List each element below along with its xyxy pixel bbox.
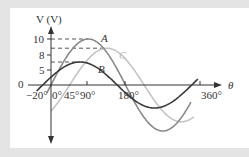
theta-axis-arrow-icon — [214, 82, 222, 88]
y-tick-10: 10 — [33, 33, 45, 45]
x-tick-0: 0° — [52, 89, 62, 101]
x-tick-180: 180° — [118, 89, 139, 101]
y-tick-8: 8 — [39, 49, 45, 61]
axes — [28, 26, 222, 144]
x-tick-360: 360° — [201, 89, 222, 101]
x-tick-90: 90° — [80, 89, 95, 101]
v-axis-label: V (V) — [36, 13, 62, 26]
origin-label: 0 — [18, 78, 24, 90]
x-tick-45: 45° — [64, 89, 79, 101]
curve-c-label: C — [119, 49, 127, 61]
theta-axis-label: θ — [228, 79, 234, 91]
curve-a-label: A — [100, 32, 108, 44]
v-axis-arrow-down-icon — [48, 136, 54, 144]
x-tick-minus20: −20° — [26, 89, 48, 101]
y-tick-5: 5 — [39, 64, 45, 76]
curve-b-label: B — [98, 63, 105, 75]
v-axis-arrow-up-icon — [48, 26, 54, 34]
sine-wave-diagram: V (V) θ 0 10 8 5 −20° 0° 45° 90° 180° 36… — [0, 0, 249, 157]
